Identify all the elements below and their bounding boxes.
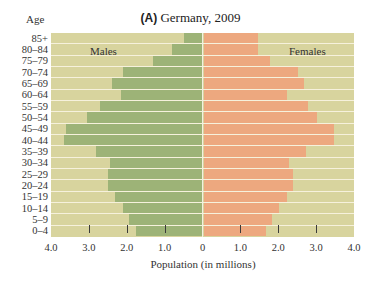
y-axis-label: Age: [26, 13, 44, 25]
x-axis-title: Population (in millions): [0, 258, 381, 270]
female-bar: [204, 33, 259, 43]
female-bar: [204, 101, 308, 111]
female-bar: [204, 56, 270, 66]
female-bar: [204, 203, 280, 213]
plot-area: [51, 33, 354, 237]
male-bar: [108, 180, 203, 190]
male-bar: [87, 112, 203, 122]
center-axis-line: [202, 33, 203, 237]
male-bar: [123, 67, 203, 77]
male-bar: [184, 33, 203, 43]
x-tick-label: 2.0: [263, 242, 293, 253]
age-label: 25–29: [0, 169, 48, 181]
x-tick-mark: [278, 225, 279, 233]
male-bar: [96, 146, 202, 156]
x-tick-mark: [240, 225, 241, 233]
female-bar: [204, 214, 272, 224]
x-tick-mark: [127, 225, 128, 233]
x-tick-label: 4.0: [339, 242, 369, 253]
x-tick-label: 3.0: [74, 242, 104, 253]
female-bar: [204, 67, 299, 77]
age-label: 75–79: [0, 55, 48, 67]
female-bar: [204, 192, 287, 202]
age-label: 30–34: [0, 157, 48, 169]
male-bar: [123, 203, 203, 213]
x-tick-mark: [89, 225, 90, 233]
age-label: 50–54: [0, 112, 48, 124]
x-tick-label: 1.0: [150, 242, 180, 253]
male-bar: [136, 226, 202, 236]
x-tick-mark: [316, 225, 317, 233]
x-tick-label: 1.0: [225, 242, 255, 253]
age-label: 5–9: [0, 214, 48, 226]
female-bar: [204, 158, 289, 168]
female-bar: [204, 146, 306, 156]
age-label: 80–84: [0, 44, 48, 56]
male-bar: [112, 78, 203, 88]
males-label: Males: [90, 45, 117, 57]
age-label: 10–14: [0, 203, 48, 215]
age-label: 20–24: [0, 180, 48, 192]
x-tick-label: 0: [188, 242, 218, 253]
male-bar: [66, 124, 202, 134]
male-bar: [129, 214, 203, 224]
age-label: 40–44: [0, 135, 48, 147]
age-label: 70–74: [0, 67, 48, 79]
age-label: 85+: [0, 33, 48, 45]
age-label: 55–59: [0, 101, 48, 113]
female-bar: [204, 135, 335, 145]
x-tick-label: 3.0: [301, 242, 331, 253]
age-label: 35–39: [0, 146, 48, 158]
age-label: 60–64: [0, 89, 48, 101]
title-text: Germany, 2009: [157, 10, 240, 25]
age-label: 65–69: [0, 78, 48, 90]
chart-title: (A) Germany, 2009: [0, 10, 381, 26]
female-bar: [204, 226, 266, 236]
male-bar: [64, 135, 202, 145]
age-label: 0–4: [0, 225, 48, 237]
females-label: Females: [289, 45, 326, 57]
female-bar: [204, 169, 293, 179]
x-tick-label: 2.0: [112, 242, 142, 253]
female-bar: [204, 124, 335, 134]
male-bar: [153, 56, 202, 66]
x-tick-mark: [165, 225, 166, 233]
female-bar: [204, 180, 293, 190]
age-label: 45–49: [0, 123, 48, 135]
male-bar: [100, 101, 202, 111]
title-letter: A: [145, 11, 154, 25]
age-label: 15–19: [0, 191, 48, 203]
female-bar: [204, 78, 304, 88]
female-bar: [204, 44, 259, 54]
female-bar: [204, 112, 318, 122]
x-tick-label: 4.0: [36, 242, 66, 253]
male-bar: [172, 44, 202, 54]
male-bar: [108, 169, 203, 179]
female-bar: [204, 90, 287, 100]
male-bar: [115, 192, 202, 202]
male-bar: [121, 90, 202, 100]
male-bar: [110, 158, 203, 168]
